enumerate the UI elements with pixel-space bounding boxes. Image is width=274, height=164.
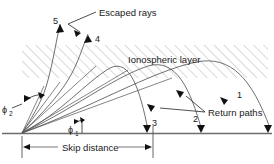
ray-3-label: 3 [152,118,157,128]
ray-1-label: 1 [237,90,242,100]
phi1-subscript: 1 [75,130,79,137]
ionospheric-layer-label: Ionospheric layer [128,54,200,65]
skip-distance-label: Skip distance [62,142,119,153]
escaped-rays-label: Escaped rays [99,7,157,18]
ray-4-arrowhead [84,35,92,43]
phi2-angle-marker [12,92,45,108]
phi2-label: ϕ [2,105,7,115]
ray-2-ground-arrowhead [197,125,205,133]
ionosphere-skip-distance-diagram: Escaped rays Ionospheric layer Return pa… [0,0,274,164]
figure-canvas: Escaped rays Ionospheric layer Return pa… [0,0,274,164]
return-paths-leader [160,96,205,112]
escaped-rays-leader [68,12,96,37]
ray-1-arrowhead [220,97,228,105]
phi1-label: ϕ [68,125,73,135]
ray-5-label: 5 [53,16,58,26]
phi2-subscript: 2 [9,110,13,117]
ray-1-mid-arrowhead [176,90,184,98]
return-paths-label: Return paths [208,107,263,118]
ray-2-label: 2 [193,114,198,124]
ray-2-arrowhead [147,104,155,112]
ray-4-label: 4 [95,34,100,44]
ray-3-ground-arrowhead [143,125,151,133]
ray-1-ground-arrowhead [264,125,272,133]
